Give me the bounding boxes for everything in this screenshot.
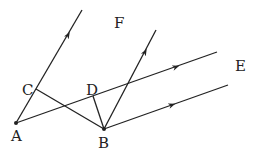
ray-b-up [104,30,156,129]
point-b [102,127,106,131]
label-d: D [86,81,98,99]
point-a [14,121,18,125]
ray-af [16,10,82,123]
geometry-diagram: A B C D E F [0,0,256,156]
label-e: E [235,57,246,75]
ray-b-right [104,85,228,129]
label-f: F [114,14,124,32]
label-c: C [22,81,33,99]
label-b: B [98,134,109,152]
ray-ae [16,52,217,123]
label-a: A [10,127,22,145]
